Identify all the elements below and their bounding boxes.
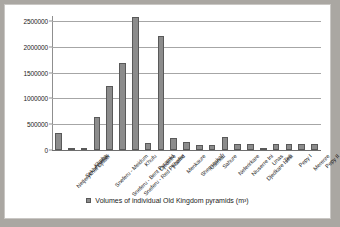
legend-swatch-icon [86,198,91,203]
legend-label: Volumes of individual Old Kingdom pyrami… [95,197,248,204]
plot-area: 05000001000000150000020000002500000 [52,16,321,150]
bar-series [52,16,321,150]
y-tick-label: 500000 [27,121,48,128]
y-tick-label: 1000000 [23,95,48,102]
bar[interactable] [94,117,101,150]
bar[interactable] [234,144,241,150]
bar[interactable] [209,145,216,150]
y-tick-label: 0 [44,147,48,154]
bar[interactable] [247,144,254,150]
chart-plot-wrapper: 05000001000000150000020000002500000 Netj… [5,5,330,218]
bar[interactable] [119,63,126,150]
y-tick-label: 1500000 [23,69,48,76]
chart-legend: Volumes of individual Old Kingdom pyrami… [5,197,330,204]
bar[interactable] [298,144,305,150]
bar[interactable] [170,138,177,150]
chart-container: 05000001000000150000020000002500000 Netj… [4,4,331,219]
x-axis-labels: Netjerykhet DjoserSekhemkhetKhabaSneferu… [52,151,321,201]
bar[interactable] [286,144,293,150]
bar[interactable] [260,148,267,150]
bar[interactable] [273,144,280,150]
bar[interactable] [106,86,113,150]
bar[interactable] [222,137,229,150]
bar[interactable] [55,133,62,150]
bar[interactable] [196,145,203,150]
y-tick-label: 2000000 [23,43,48,50]
bar[interactable] [68,148,75,150]
bar[interactable] [158,36,165,150]
y-tick-label: 2500000 [23,18,48,25]
bar[interactable] [81,148,88,150]
x-tick-label: Pepy I [298,153,313,168]
bar[interactable] [145,143,152,150]
bar[interactable] [183,142,190,150]
bar[interactable] [311,144,318,150]
bar[interactable] [132,17,139,150]
